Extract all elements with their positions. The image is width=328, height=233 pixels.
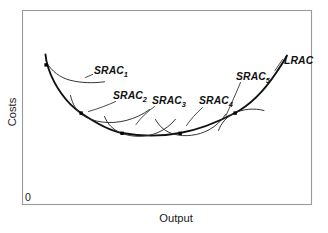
origin-label: 0 (25, 191, 31, 203)
tangency-dot-1 (44, 63, 47, 66)
tangency-dot-3 (120, 132, 123, 135)
figure-frame (23, 11, 312, 205)
tangency-dot-5 (233, 111, 236, 114)
x-axis-title: Output (159, 212, 193, 224)
tangency-dot-2 (79, 111, 82, 114)
tangency-dot-4 (178, 132, 181, 135)
y-axis-title: Costs (6, 97, 18, 126)
cost-curve-figure: SRAC1 SRAC2 SRAC3 SRAC4 SRAC5 LRAC Costs… (0, 0, 328, 233)
figure-screenshot: SRAC1 SRAC2 SRAC3 SRAC4 SRAC5 LRAC Costs… (0, 0, 328, 233)
label-lrac: LRAC (284, 55, 314, 66)
